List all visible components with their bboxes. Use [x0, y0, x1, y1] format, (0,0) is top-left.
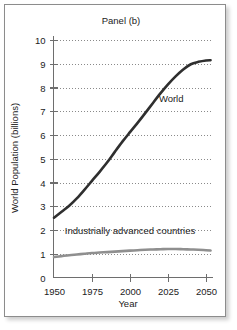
chart-figure: Panel (b) 012345678910 19501975200020252… — [0, 0, 237, 330]
x-tick-label-1950: 1950 — [44, 286, 65, 297]
y-tick-label-4: 4 — [40, 178, 45, 189]
x-axis-title: Year — [118, 298, 137, 309]
y-axis-title: World Population (billions) — [9, 103, 20, 213]
x-tick-label-2050: 2050 — [196, 286, 217, 297]
y-tick-label-10: 10 — [35, 35, 46, 46]
y-tick-label-2: 2 — [40, 225, 45, 236]
series-label-world: World — [159, 93, 184, 104]
series-label-industrially-advanced-countries: Industrially advanced countries — [65, 225, 196, 236]
x-tick-label-2025: 2025 — [158, 286, 179, 297]
y-tick-label-8: 8 — [40, 83, 45, 94]
y-tick-label-1: 1 — [40, 249, 45, 260]
y-tick-label-0: 0 — [40, 273, 45, 284]
y-tick-label-6: 6 — [40, 130, 45, 141]
y-tick-label-5: 5 — [40, 154, 45, 165]
x-tick-label-1975: 1975 — [82, 286, 103, 297]
y-axis-tick-labels: 012345678910 — [35, 35, 46, 284]
series-line-industrially-advanced-countries — [54, 249, 211, 257]
x-axis-tick-labels: 19501975200020252050 — [44, 286, 217, 297]
chart-title: Panel (b) — [102, 15, 141, 26]
axis-lines — [54, 36, 214, 278]
y-tick-label-7: 7 — [40, 106, 45, 117]
series-line-world — [54, 60, 211, 217]
x-tick-label-2000: 2000 — [120, 286, 141, 297]
y-tick-label-3: 3 — [40, 201, 45, 212]
gridlines-group — [54, 41, 213, 255]
population-line-chart: Panel (b) 012345678910 19501975200020252… — [0, 0, 237, 330]
y-tick-label-9: 9 — [40, 59, 45, 70]
